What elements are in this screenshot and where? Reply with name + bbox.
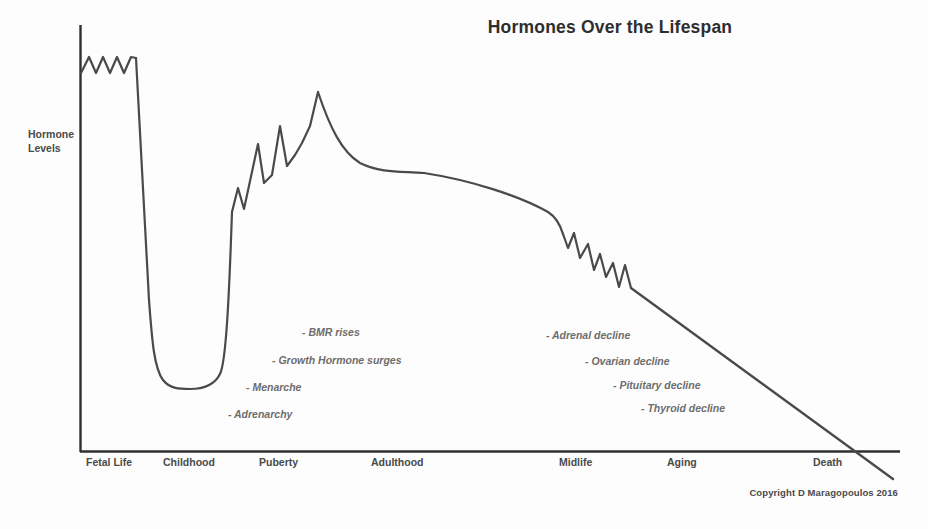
x-tick-death: Death [813, 456, 842, 468]
copyright-notice: Copyright D Maragopoulos 2016 [749, 487, 898, 498]
x-tick-fetal-life: Fetal Life [86, 456, 132, 468]
annotation-bmr-rises: - BMR rises [302, 326, 360, 338]
curve-fetal-oscillation [81, 57, 136, 73]
chart-plot-area [0, 0, 928, 529]
curve-midlife-sawtooth [563, 233, 631, 288]
annotation-pituitary-decline: - Pituitary decline [613, 379, 701, 391]
curve-puberty-sawtooth [232, 92, 318, 212]
x-tick-adulthood: Adulthood [371, 456, 423, 468]
annotation-ovarian-decline: - Ovarian decline [585, 355, 670, 367]
annotation-growth-hormone: - Growth Hormone surges [272, 354, 402, 366]
curve-childhood-trough [190, 212, 232, 389]
y-axis-label-line1: Hormone [28, 127, 92, 141]
annotation-adrenal-decline: - Adrenal decline [546, 329, 630, 341]
hormones-lifespan-figure: Hormones Over the Lifespan Hormone Level… [0, 0, 928, 529]
x-tick-childhood: Childhood [163, 456, 215, 468]
x-tick-puberty: Puberty [259, 456, 298, 468]
annotation-adrenarchy: - Adrenarchy [228, 408, 292, 420]
x-tick-midlife: Midlife [559, 456, 592, 468]
curve-adulthood-decay [318, 92, 424, 173]
curve-adulthood-plateau [424, 173, 563, 234]
annotation-thyroid-decline: - Thyroid decline [641, 402, 725, 414]
curve-childhood-drop [136, 58, 190, 389]
y-axis-label: Hormone Levels [28, 127, 92, 155]
annotation-menarche: - Menarche [246, 381, 301, 393]
x-tick-aging: Aging [667, 456, 697, 468]
chart-title: Hormones Over the Lifespan [440, 17, 780, 38]
y-axis-label-line2: Levels [28, 141, 92, 155]
